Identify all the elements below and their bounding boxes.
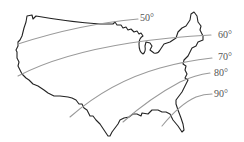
isotherm-label-90: 90° <box>214 88 228 99</box>
isotherm-label-60: 60° <box>218 29 232 40</box>
us-outline <box>16 12 203 136</box>
isotherm-line-60 <box>18 35 211 76</box>
isotherm-line-90 <box>162 94 212 126</box>
isotherm-label-50: 50° <box>140 12 154 23</box>
isotherm-label-80: 80° <box>214 67 228 78</box>
isotherm-line-70 <box>70 58 212 117</box>
isotherm-line-80 <box>123 73 210 122</box>
isotherm-label-70: 70° <box>218 51 232 62</box>
isotherm-map: 50° 60° 70° 80° 90° <box>0 0 244 142</box>
isotherm-line-50 <box>18 19 138 44</box>
